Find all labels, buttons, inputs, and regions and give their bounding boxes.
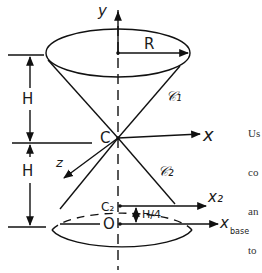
bottom-ellipse-front (52, 230, 192, 247)
y-axis-label: y (97, 2, 108, 20)
double-cone-diagram: y R 𝒞₁ H C x z 𝒞₂ H x₂ C₂ H/4 O x base (0, 0, 262, 273)
quarter-height-label: H/4 (142, 208, 161, 221)
c2-point-label: C₂ (101, 200, 114, 214)
xbase-axis-label: x (219, 214, 229, 232)
xbase-subscript: base (230, 227, 249, 236)
side-text: Us co an to (248, 101, 260, 270)
z-axis-label: z (55, 155, 64, 170)
x-axis-label: x (202, 124, 214, 145)
height-lower-label: H (22, 162, 33, 180)
side-text-line: co (248, 166, 260, 179)
side-text-line: an (248, 205, 260, 218)
cone-top-label: 𝒞₁ (166, 88, 182, 104)
radius-label: R (144, 35, 154, 53)
x2-axis-label: x₂ (207, 188, 223, 206)
cone-bottom-label: 𝒞₂ (158, 163, 174, 179)
origin-label: O (103, 215, 115, 233)
apex-label: C (100, 129, 110, 147)
side-text-line: Us (248, 127, 260, 140)
height-upper-label: H (22, 90, 33, 108)
side-text-line: to (248, 244, 260, 257)
